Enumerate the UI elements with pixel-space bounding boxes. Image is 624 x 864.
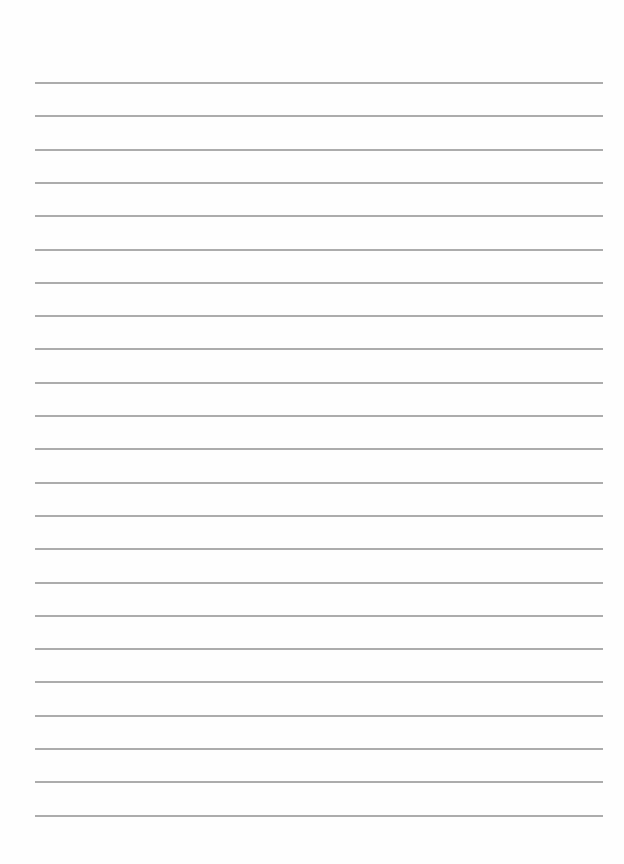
ruled-line xyxy=(35,215,603,217)
ruled-line xyxy=(35,282,603,284)
lined-paper-page xyxy=(0,0,624,864)
ruled-line xyxy=(35,648,603,650)
ruled-line xyxy=(35,515,603,517)
ruled-line xyxy=(35,482,603,484)
ruled-line xyxy=(35,815,603,817)
ruled-line xyxy=(35,115,603,117)
ruled-line xyxy=(35,415,603,417)
ruled-line xyxy=(35,448,603,450)
ruled-line xyxy=(35,548,603,550)
ruled-line xyxy=(35,182,603,184)
ruled-line xyxy=(35,149,603,151)
ruled-line xyxy=(35,382,603,384)
ruled-line xyxy=(35,315,603,317)
ruled-line xyxy=(35,681,603,683)
ruled-line xyxy=(35,715,603,717)
ruled-line xyxy=(35,748,603,750)
ruled-line xyxy=(35,348,603,350)
ruled-line xyxy=(35,82,603,84)
ruled-line xyxy=(35,615,603,617)
ruled-line xyxy=(35,781,603,783)
ruled-line xyxy=(35,249,603,251)
ruled-line xyxy=(35,582,603,584)
